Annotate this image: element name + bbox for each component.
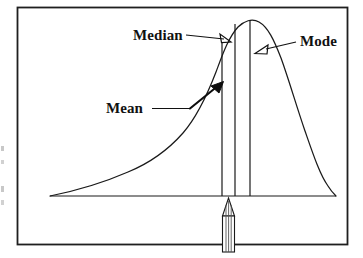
mode-leader-line: [266, 42, 296, 49]
mean-label: Mean: [106, 100, 144, 116]
median-label: Median: [133, 27, 183, 43]
mean-annotation: Mean: [106, 82, 224, 117]
median-leader-line: [186, 35, 224, 39]
skewed-distribution-figure: Median Mode Mean: [0, 0, 363, 258]
mode-annotation: Mode: [255, 33, 337, 54]
distribution-curve: [50, 20, 336, 196]
figure-root: Median Mode Mean: [0, 0, 363, 258]
figure-border: [18, 8, 348, 245]
pencil-pointer: [223, 198, 235, 252]
median-annotation: Median: [133, 27, 231, 43]
mode-label: Mode: [300, 33, 337, 49]
scan-artifacts: [1, 146, 4, 205]
mode-arrowhead: [255, 45, 268, 54]
